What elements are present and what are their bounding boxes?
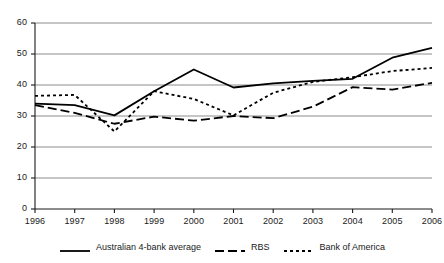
legend-entry[interactable]: RBS <box>215 242 270 252</box>
legend-entry[interactable]: Bank of America <box>284 242 386 252</box>
y-tick-marks <box>31 23 35 209</box>
series-line-rbs <box>35 83 432 124</box>
x-tick-label: 1997 <box>55 217 95 226</box>
x-tick-marks <box>35 209 432 213</box>
x-tick-label: 1998 <box>94 217 134 226</box>
line-chart: 0102030405060 19961997199819992000200120… <box>0 0 444 263</box>
y-tick-label: 20 <box>5 142 27 151</box>
x-tick-label: 2003 <box>293 217 333 226</box>
data-series-group <box>35 48 432 132</box>
y-tick-label: 50 <box>5 49 27 58</box>
y-tick-label: 40 <box>5 80 27 89</box>
x-tick-label: 1996 <box>15 217 55 226</box>
series-line-bank-of-america <box>35 68 432 132</box>
legend-label: RBS <box>251 242 270 252</box>
gridlines <box>35 23 432 178</box>
legend-line-swatch <box>215 242 245 252</box>
x-tick-label: 2005 <box>372 217 412 226</box>
legend-line-swatch <box>284 242 314 252</box>
x-tick-label: 2001 <box>214 217 254 226</box>
y-tick-label: 10 <box>5 173 27 182</box>
y-tick-label: 0 <box>5 204 27 213</box>
x-tick-label: 2006 <box>412 217 444 226</box>
x-tick-label: 2000 <box>174 217 214 226</box>
legend-entry[interactable]: Australian 4-bank average <box>60 242 201 252</box>
legend-label: Australian 4-bank average <box>96 242 201 252</box>
series-line-australian-4-bank-average <box>35 48 432 116</box>
x-tick-label: 2004 <box>333 217 373 226</box>
y-tick-label: 30 <box>5 111 27 120</box>
chart-legend: Australian 4-bank averageRBSBank of Amer… <box>60 238 396 256</box>
x-tick-label: 2002 <box>253 217 293 226</box>
y-tick-label: 60 <box>5 18 27 27</box>
legend-label: Bank of America <box>320 242 386 252</box>
x-tick-label: 1999 <box>134 217 174 226</box>
legend-line-swatch <box>60 242 90 252</box>
